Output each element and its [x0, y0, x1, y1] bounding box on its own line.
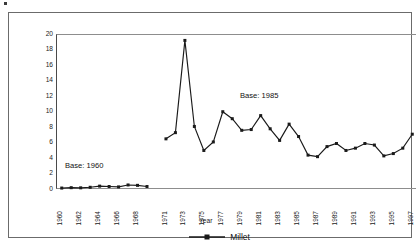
- x-tick-label: 1962: [76, 211, 82, 225]
- y-tick-label: 14: [37, 77, 53, 84]
- data-point-marker: [326, 145, 329, 148]
- data-point-marker: [60, 187, 63, 190]
- y-tick-label: 4: [37, 155, 53, 162]
- data-point-marker: [316, 155, 319, 158]
- annotation-base-1985: Base: 1985: [240, 91, 278, 100]
- x-tick-label: 1960: [57, 211, 63, 225]
- y-axis-tick-labels: 02468101214161820: [35, 34, 53, 189]
- data-point-marker: [164, 137, 167, 140]
- data-point-marker: [79, 186, 82, 189]
- y-tick-label: 10: [37, 108, 53, 115]
- legend-label-millet: Millet: [230, 232, 250, 242]
- y-tick-label: 20: [37, 31, 53, 38]
- y-tick-label: 16: [37, 62, 53, 69]
- chart-figure: Price in naira 02468101214161820 1960196…: [0, 0, 420, 246]
- x-tick-label: 1966: [114, 211, 120, 225]
- y-tick-label: 12: [37, 93, 53, 100]
- x-axis-tick-labels: 1960196219641966196819711973197519771979…: [56, 191, 416, 225]
- data-point-marker: [117, 185, 120, 188]
- x-tick-label: 1971: [161, 211, 167, 225]
- data-point-marker: [70, 186, 73, 189]
- y-tick-label: 8: [37, 124, 53, 131]
- data-point-marker: [335, 142, 338, 145]
- x-tick-label: 1985: [294, 211, 300, 225]
- data-point-marker: [344, 149, 347, 152]
- x-tick-label: 1979: [237, 211, 243, 225]
- data-point-marker: [212, 140, 215, 143]
- x-tick-label: 1981: [256, 211, 262, 225]
- x-tick-label: 1983: [275, 211, 281, 225]
- data-point-marker: [108, 185, 111, 188]
- data-point-marker: [240, 129, 243, 132]
- data-point-marker: [174, 131, 177, 134]
- x-tick-label: 1968: [133, 211, 139, 225]
- image-speck-artifact: [4, 2, 7, 5]
- data-point-marker: [307, 154, 310, 157]
- chart-outer-frame: Price in naira 02468101214161820 1960196…: [8, 12, 412, 238]
- data-point-marker: [250, 128, 253, 131]
- data-point-marker: [382, 154, 385, 157]
- data-point-marker: [89, 186, 92, 189]
- y-tick-label: 6: [37, 139, 53, 146]
- data-point-marker: [136, 184, 139, 187]
- data-point-marker: [202, 149, 205, 152]
- series-plot-millet: [57, 35, 417, 190]
- data-point-marker: [231, 117, 234, 120]
- series-line-segment: [166, 40, 412, 156]
- data-point-marker: [288, 123, 291, 126]
- plot-area: [56, 34, 416, 189]
- x-tick-label: 1973: [180, 211, 186, 225]
- x-tick-label: 1977: [218, 211, 224, 225]
- data-point-marker: [297, 135, 300, 138]
- data-point-marker: [373, 144, 376, 147]
- data-point-marker: [363, 142, 366, 145]
- data-point-marker: [278, 139, 281, 142]
- y-tick-label: 2: [37, 170, 53, 177]
- x-tick-label: 1964: [95, 211, 101, 225]
- data-point-marker: [183, 39, 186, 42]
- chart-legend: Millet: [9, 232, 420, 242]
- x-tick-label: 1987: [313, 211, 319, 225]
- data-point-marker: [401, 147, 404, 150]
- data-point-marker: [221, 110, 224, 113]
- x-tick-label: 1991: [351, 211, 357, 225]
- x-tick-label: 1995: [389, 211, 395, 225]
- data-point-marker: [411, 133, 414, 136]
- x-axis-title: Year: [199, 217, 212, 224]
- x-tick-label: 1989: [332, 211, 338, 225]
- data-point-marker: [354, 147, 357, 150]
- y-tick-label: 0: [37, 186, 53, 193]
- data-point-marker: [98, 185, 101, 188]
- annotation-base-1960: Base: 1960: [65, 161, 103, 170]
- x-tick-label: 1993: [370, 211, 376, 225]
- data-point-marker: [269, 127, 272, 130]
- data-point-marker: [146, 185, 149, 188]
- data-point-marker: [392, 152, 395, 155]
- x-tick-label: 1997: [407, 211, 413, 225]
- legend-line-marker-icon: [188, 232, 226, 242]
- data-point-marker: [127, 183, 130, 186]
- y-tick-label: 18: [37, 46, 53, 53]
- series-line-segment: [62, 185, 147, 188]
- data-point-marker: [259, 114, 262, 117]
- data-point-marker: [193, 125, 196, 128]
